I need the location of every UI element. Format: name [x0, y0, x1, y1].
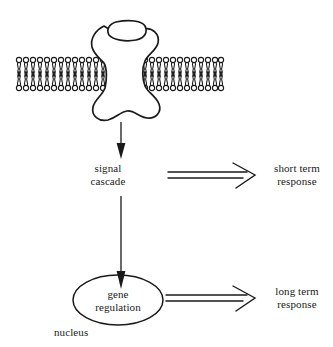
signal-transduction-diagram: signal cascade gene regulation nucleus s…: [0, 0, 333, 347]
short-term-line-1: short term: [274, 162, 320, 174]
label-signal-cascade: signal cascade: [70, 162, 146, 187]
arrow-receptor-to-cascade: [117, 122, 126, 159]
signal-cascade-line-2: cascade: [91, 175, 126, 187]
short-term-line-2: response: [277, 175, 316, 187]
signal-cascade-line-1: signal: [95, 162, 122, 174]
arrow-to-long-term-response: [166, 286, 255, 311]
gene-regulation-line-1: gene: [107, 288, 128, 300]
arrow-to-short-term-response: [168, 163, 255, 188]
long-term-line-1: long term: [275, 285, 318, 297]
label-nucleus: nucleus: [54, 326, 114, 339]
label-gene-regulation: gene regulation: [80, 288, 156, 313]
label-long-term-response: long term response: [262, 285, 332, 310]
bound-ligand: [108, 21, 146, 41]
long-term-line-2: response: [277, 298, 316, 310]
label-short-term-response: short term response: [262, 162, 332, 187]
gene-regulation-line-2: regulation: [95, 301, 141, 313]
